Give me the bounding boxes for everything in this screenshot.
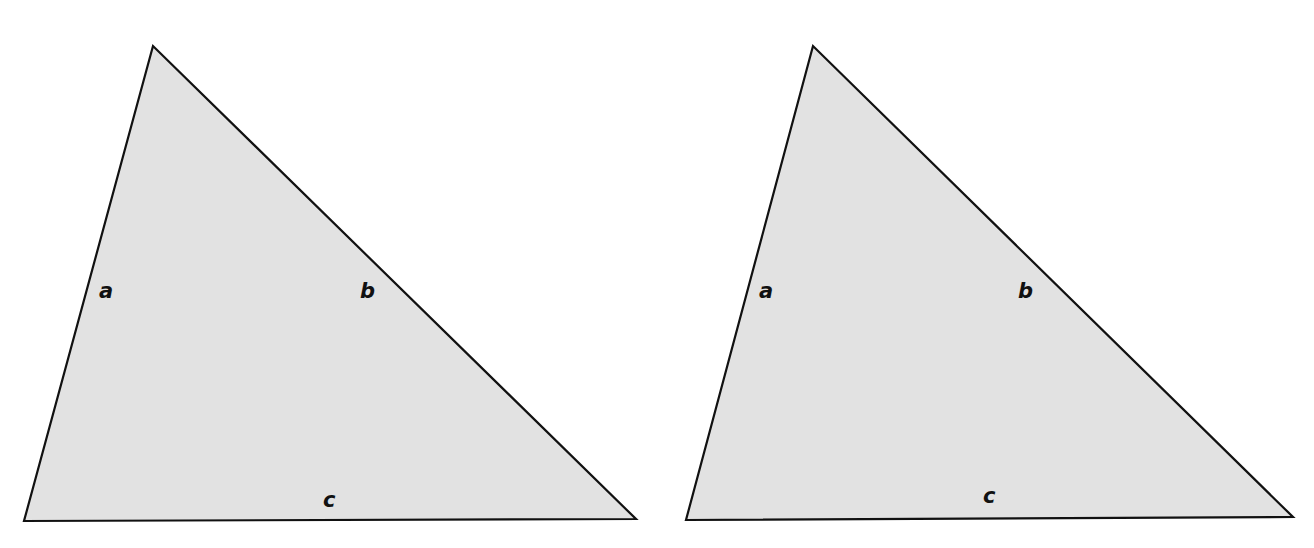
right-side-c-label: c (983, 484, 996, 508)
right-triangle-group: a b c (686, 46, 1293, 520)
right-side-a-label: a (759, 279, 773, 303)
right-side-b-label: b (1018, 279, 1033, 303)
left-side-a-label: a (99, 279, 113, 303)
left-triangle (24, 46, 636, 521)
left-side-b-label: b (360, 279, 375, 303)
left-triangle-group: a b c (24, 46, 636, 521)
left-side-c-label: c (323, 488, 336, 512)
right-triangle (686, 46, 1293, 520)
triangle-diagram: a b c a b c (0, 0, 1314, 548)
